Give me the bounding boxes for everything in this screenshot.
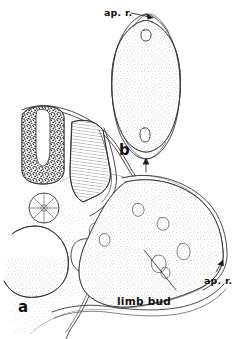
panel-a-neural-tube: [20, 104, 68, 188]
panel-letter-a: a: [18, 298, 28, 316]
label-ap-r-top: ap. r.: [104, 7, 132, 18]
figure-container: b ap. r. ap.r.: [0, 0, 236, 339]
panel-a-notochord-spokes: [29, 193, 59, 223]
panel-a-neural-canal: [36, 109, 50, 166]
embryo-section-figure: b ap. r. ap.r.: [0, 0, 236, 339]
label-limb-bud: limb bud: [117, 295, 171, 307]
label-ap-r-right: ap. r.: [204, 275, 232, 286]
panel-a-notochord: [29, 193, 59, 223]
